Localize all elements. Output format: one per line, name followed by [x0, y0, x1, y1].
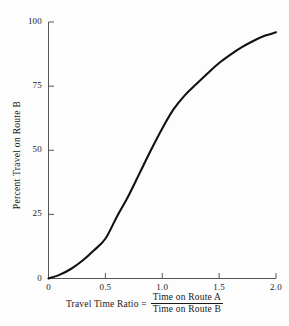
x-axis-ticks [105, 273, 276, 279]
y-tick-label: 75 [4, 80, 42, 90]
chart-plot-area [0, 0, 289, 326]
y-axis-title: Percent Travel on Route B [12, 75, 22, 235]
chart-page: 0255075100 00.51.01.52.0 Percent Travel … [0, 0, 289, 326]
y-tick-label: 25 [4, 208, 42, 218]
y-tick-label: 50 [4, 144, 42, 154]
fraction-denominator: Time on Route B [151, 304, 223, 315]
fraction-numerator: Time on Route A [151, 292, 223, 303]
x-tick-label: 1.5 [199, 282, 239, 292]
y-axis-ticks [49, 22, 55, 214]
y-tick-label: 100 [4, 16, 42, 26]
x-tick-label: 2.0 [256, 282, 289, 292]
x-tick-label: 0.5 [85, 282, 125, 292]
x-tick-label: 0 [29, 282, 69, 292]
data-series-line [49, 32, 277, 278]
x-axis-title-fraction: Time on Route A Time on Route B [151, 292, 223, 315]
x-axis-title-lead: Travel Time Ratio = [66, 299, 147, 309]
x-axis-title: Travel Time Ratio = Time on Route A Time… [0, 292, 289, 315]
x-tick-label: 1.0 [142, 282, 182, 292]
